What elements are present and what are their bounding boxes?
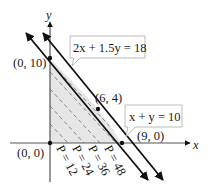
vertex-9-0 xyxy=(120,141,124,145)
vertex-label-0-10: (0, 10) xyxy=(13,56,46,70)
vertex-6-4 xyxy=(96,107,100,111)
svg-text:x + y = 10: x + y = 10 xyxy=(129,110,181,124)
linear-programming-graph: x y 2x + 1.5y = 18 x + y = 10 (0, 10) (6… xyxy=(0,0,212,194)
vertex-0-10 xyxy=(48,56,52,60)
x-axis-label: x xyxy=(192,138,199,152)
svg-text:2x + 1.5y = 18: 2x + 1.5y = 18 xyxy=(73,41,146,55)
vertex-label-9-0: (9, 0) xyxy=(137,129,164,143)
vertex-label-0-0: (0, 0) xyxy=(17,146,44,160)
vertex-0-0 xyxy=(48,141,52,145)
y-axis-label: y xyxy=(44,8,52,22)
callout-2x-1.5y-18: 2x + 1.5y = 18 xyxy=(70,36,146,66)
vertex-label-6-4: (6, 4) xyxy=(95,91,122,105)
